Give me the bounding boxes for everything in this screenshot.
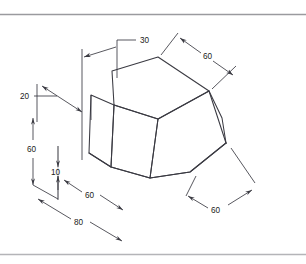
dimension-60-left-group: [33, 118, 58, 199]
ext-line-60tr-a: [161, 33, 178, 55]
ext-line-60tr-b: [212, 66, 236, 89]
dimension-20-group: [34, 84, 91, 122]
dim-line-60b-1: [64, 180, 82, 192]
dimension-60-top-right-label: 60: [203, 52, 213, 61]
dimension-60-left-label: 60: [27, 145, 37, 154]
dim-line-20-down: [62, 99, 82, 112]
dimension-60-top-right-group: [161, 33, 236, 89]
dimension-60-bottom-left-label: 60: [85, 191, 95, 200]
dim-line-30: [84, 47, 116, 57]
top-face: [112, 57, 209, 119]
dimension-20-label: 20: [20, 92, 30, 101]
dim-line-80-1: [38, 199, 71, 219]
dim-line-60b-2: [100, 195, 123, 210]
solid-body: [89, 57, 226, 178]
dimension-60-bottom-right-group: [186, 148, 255, 208]
dim-line-80-2: [90, 222, 122, 241]
isometric-drawing: 30 60 20 60 10: [0, 0, 306, 264]
ext-line-60br-b: [231, 148, 255, 183]
dim-line-20-up: [42, 86, 62, 99]
dimension-30-label: 30: [140, 36, 150, 45]
dim-line-60br-2: [228, 190, 252, 205]
dim-line-60tr-1: [180, 38, 201, 53]
front-left-face: [111, 105, 158, 178]
ext-line-60l-bottom: [33, 185, 58, 199]
dim-line-60br-1: [188, 196, 208, 208]
right-face: [150, 91, 226, 178]
ext-line-60br-a: [186, 176, 196, 196]
left-chamfer-face: [89, 95, 114, 167]
dimension-30-group: [82, 40, 136, 160]
dimension-10-label: 10: [51, 168, 61, 177]
dimension-80-label: 80: [74, 218, 84, 227]
dim-line-60tr-2: [213, 61, 233, 75]
drawing-canvas: 30 60 20 60 10: [0, 0, 306, 264]
dimension-60-bottom-right-label: 60: [211, 206, 221, 215]
base-front-edge: [89, 143, 226, 178]
